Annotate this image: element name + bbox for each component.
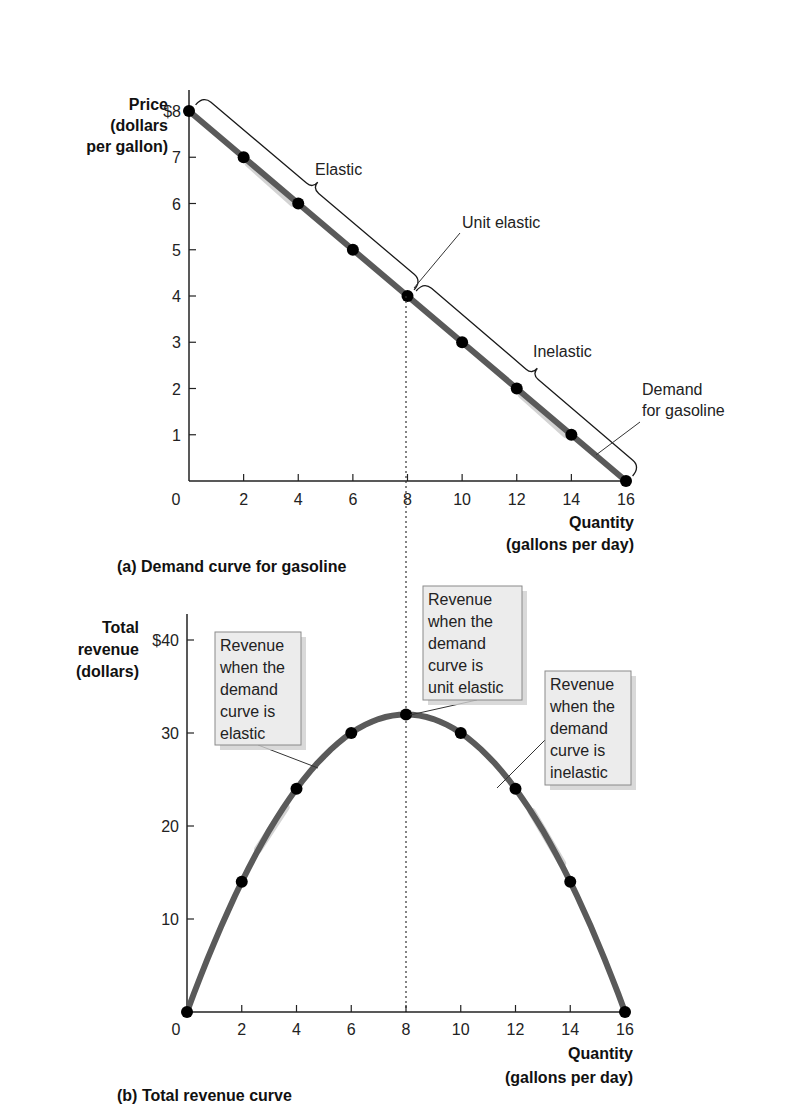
x-axis-title: Quantity(gallons per day) [505, 1045, 633, 1086]
box-text-line: demand [220, 681, 278, 698]
box-text-line: when the [219, 659, 285, 676]
x-ticks: 0246810121416 [172, 474, 635, 508]
x-tick-label: 4 [294, 491, 303, 508]
x-tick-label: 0 [172, 491, 181, 508]
figure: Price(dollarsper gallon) $87654321 02468… [0, 0, 787, 1106]
box-text-line: Revenue [428, 591, 492, 608]
data-point [619, 1006, 631, 1018]
y-axis-title-line: Price [129, 96, 168, 113]
y-tick-label: 5 [172, 242, 181, 259]
data-point [238, 151, 250, 163]
data-point [402, 290, 414, 302]
panel-b-total-revenue-chart: Totalrevenue(dollars) $40302010 02468101… [76, 586, 636, 1104]
x-tick-label: 8 [403, 491, 412, 508]
x-axis-title-line: (gallons per day) [505, 1069, 633, 1086]
data-point [181, 1006, 193, 1018]
box-text-line: unit elastic [428, 679, 504, 696]
y-tick-label: $8 [163, 103, 181, 120]
elasticity-brackets [196, 100, 637, 476]
panel-title: (a) Demand curve for gasoline [117, 558, 346, 575]
elastic-bracket [196, 100, 418, 290]
x-tick-label: 10 [452, 1021, 470, 1038]
x-tick-label: 0 [172, 1021, 181, 1038]
data-point [565, 429, 577, 441]
data-point [345, 727, 357, 739]
box-text-line: curve is [550, 742, 605, 759]
y-axis-title-line: (dollars) [76, 663, 139, 680]
annotation-boxes: Revenuewhen thedemandcurve iselasticReve… [215, 586, 636, 790]
box-text-line: when the [549, 698, 615, 715]
y-tick-label: 6 [172, 196, 181, 213]
panel-title: (b) Total revenue curve [117, 1087, 292, 1104]
y-axis-title-line: per gallon) [86, 138, 168, 155]
data-point [183, 105, 195, 117]
box-text-line: Revenue [220, 637, 284, 654]
box-text-line: demand [428, 635, 486, 652]
x-tick-label: 8 [402, 1021, 411, 1038]
demand-label-line: for gasoline [642, 402, 725, 419]
x-axis-title-line: Quantity [569, 514, 634, 531]
annotations: ElasticUnit elasticInelasticDemandfor ga… [315, 161, 725, 455]
y-tick-label: 4 [172, 288, 181, 305]
x-tick-label: 6 [348, 491, 357, 508]
data-point [564, 876, 576, 888]
x-tick-label: 10 [453, 491, 471, 508]
inelastic-label: Inelastic [533, 343, 592, 360]
y-tick-label: 1 [172, 427, 181, 444]
y-tick-label: 2 [172, 381, 181, 398]
x-tick-label: 6 [347, 1021, 356, 1038]
elastic-label: Elastic [315, 161, 362, 178]
y-axis-title: Totalrevenue(dollars) [76, 619, 139, 680]
box-text-line: curve is [428, 657, 483, 674]
box-text-line: elastic [220, 725, 265, 742]
x-axis-title: Quantity(gallons per day) [506, 514, 634, 553]
x-tick-label: 4 [292, 1021, 301, 1038]
y-tick-label: 10 [161, 911, 179, 928]
y-ticks: $87654321 [163, 103, 196, 444]
data-point [620, 475, 632, 487]
x-tick-label: 14 [562, 491, 580, 508]
unit-elastic-pointer [414, 233, 460, 288]
data-point [400, 708, 412, 720]
data-point [455, 727, 467, 739]
y-axis-title-line: (dollars [110, 117, 168, 134]
data-point [511, 383, 523, 395]
x-ticks: 0246810121416 [172, 1005, 634, 1038]
inelastic-bracket [416, 286, 636, 476]
box-text-line: Revenue [550, 676, 614, 693]
y-tick-label: 7 [172, 149, 181, 166]
elastic-revenue-box: Revenuewhen thedemandcurve iselastic [215, 632, 318, 768]
x-tick-label: 16 [617, 491, 635, 508]
data-point [292, 198, 304, 210]
y-tick-label: 3 [172, 334, 181, 351]
unit-elastic-revenue-box: Revenuewhen thedemandcurve isunit elasti… [410, 586, 527, 715]
y-tick-label: $40 [152, 632, 179, 649]
demand-label-line: Demand [642, 381, 702, 398]
box-text-line: inelastic [550, 764, 608, 781]
data-point [236, 876, 248, 888]
x-tick-label: 2 [237, 1021, 246, 1038]
data-point [347, 244, 359, 256]
x-tick-label: 12 [508, 491, 526, 508]
x-tick-label: 14 [561, 1021, 579, 1038]
data-point [456, 336, 468, 348]
data-point [510, 783, 522, 795]
x-tick-label: 16 [616, 1021, 634, 1038]
x-tick-label: 2 [239, 491, 248, 508]
y-tick-label: 30 [161, 725, 179, 742]
y-axis-title-line: Total [102, 619, 139, 636]
x-axis-title-line: Quantity [568, 1045, 633, 1062]
y-tick-label: 20 [161, 818, 179, 835]
x-tick-label: 12 [507, 1021, 525, 1038]
y-axis-title: Price(dollarsper gallon) [86, 96, 168, 155]
box-text-line: demand [550, 720, 608, 737]
box-text-line: curve is [220, 703, 275, 720]
unit-elastic-label: Unit elastic [462, 214, 540, 231]
box-pointer [497, 740, 545, 788]
x-axis-title-line: (gallons per day) [506, 536, 634, 553]
demand-pointer [596, 422, 640, 455]
data-point [291, 783, 303, 795]
y-axis-title-line: revenue [78, 641, 139, 658]
box-text-line: when the [427, 613, 493, 630]
